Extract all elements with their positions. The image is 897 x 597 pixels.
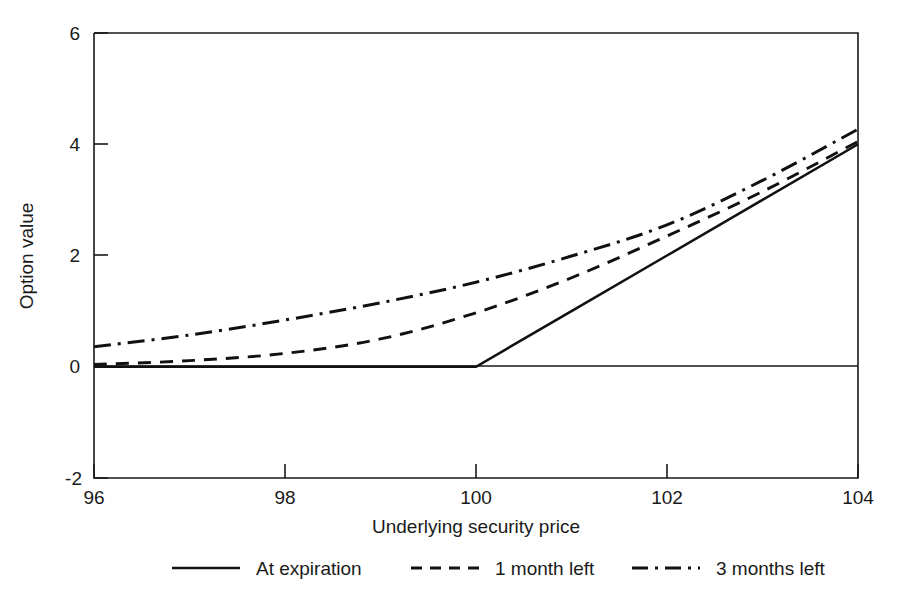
- chart-figure: 6 4 2 0 -2 96 98 100 102 104 Underlying …: [0, 0, 897, 597]
- x-tick-label-100: 100: [460, 487, 492, 508]
- legend-label-at-expiration: At expiration: [256, 558, 362, 579]
- legend-label-1-month-left: 1 month left: [495, 558, 595, 579]
- y-tick-label-4: 4: [69, 134, 80, 155]
- x-axis-ticks: [94, 464, 858, 478]
- x-tick-label-102: 102: [651, 487, 683, 508]
- y-axis-ticks: [94, 33, 108, 478]
- y-tick-label-6: 6: [69, 23, 80, 44]
- x-axis-title: Underlying security price: [372, 516, 580, 537]
- y-tick-label-0: 0: [69, 356, 80, 377]
- plot-frame: [94, 33, 858, 478]
- option-value-line-chart: 6 4 2 0 -2 96 98 100 102 104 Underlying …: [0, 0, 897, 597]
- legend-label-3-months-left: 3 months left: [716, 558, 825, 579]
- y-tick-label-2: 2: [69, 245, 80, 266]
- y-axis-title: Option value: [16, 203, 37, 310]
- x-tick-label-98: 98: [274, 487, 295, 508]
- x-tick-label-96: 96: [83, 487, 104, 508]
- chart-legend: At expiration 1 month left 3 months left: [172, 558, 825, 579]
- x-tick-label-104: 104: [842, 487, 874, 508]
- y-tick-label-neg2: -2: [65, 468, 82, 489]
